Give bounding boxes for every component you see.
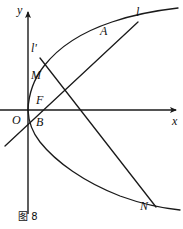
figure-canvas — [0, 0, 183, 229]
parabola-lower-branch — [28, 110, 180, 210]
line-l-prime-label: l' — [31, 42, 37, 54]
point-label-b: B — [36, 116, 43, 128]
x-axis-label: x — [172, 115, 177, 127]
point-label-n: N — [140, 200, 148, 212]
line-l-label: l — [136, 6, 139, 18]
geometry-figure: y x O l l' A M F B N 图 8 — [0, 0, 183, 229]
point-label-m: M — [31, 69, 41, 81]
y-axis-label: y — [17, 4, 22, 16]
point-label-f: F — [36, 94, 43, 106]
point-label-a: A — [100, 25, 107, 37]
line-l-prime — [40, 58, 156, 207]
origin-label: O — [12, 114, 21, 126]
figure-caption: 图 8 — [18, 212, 38, 222]
